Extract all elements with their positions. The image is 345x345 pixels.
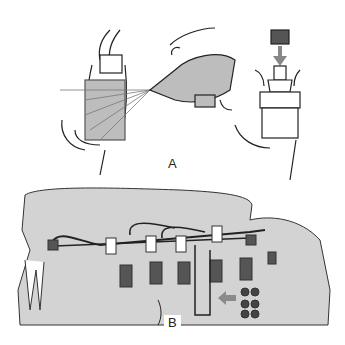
panel-a-right-injector [235, 30, 300, 180]
diagram-figure [0, 0, 345, 345]
panel-label-a: A [168, 156, 177, 171]
panel-b-engine [18, 188, 330, 325]
panel-label-b: B [164, 315, 181, 330]
aerosol-can [150, 28, 235, 110]
